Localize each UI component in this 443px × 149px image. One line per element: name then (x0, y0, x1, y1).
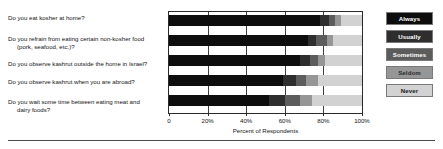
question-label: Do you eat kosher at home? (8, 14, 166, 22)
stacked-bar-chart-figure: Do you eat kosher at home?Do you refrain… (0, 0, 443, 149)
bar-segment-always (169, 35, 308, 46)
legend-item-usually[interactable]: Usually (386, 30, 433, 43)
legend-item-always[interactable]: Always (386, 12, 433, 25)
x-tick (362, 113, 363, 116)
bar-segment-seldom (318, 55, 326, 66)
bar-segment-usually (300, 55, 310, 66)
x-tick-label: 0 (167, 117, 170, 124)
bar-segment-usually (308, 35, 316, 46)
bar-segment-never (318, 75, 362, 86)
legend-label: Always (399, 15, 421, 22)
bar-segment-sometimes (296, 75, 306, 86)
x-tick (246, 113, 247, 116)
bar-segment-sometimes (285, 95, 300, 106)
bar-row (169, 35, 362, 46)
question-label: Do you observe kashrut outside the home … (8, 60, 166, 68)
question-label: Do you observe kashrut when you are abro… (8, 78, 166, 86)
legend-label: Seldom (398, 69, 421, 76)
bar-segment-never (325, 55, 362, 66)
legend-item-seldom[interactable]: Seldom (386, 66, 433, 79)
bar-segment-always (169, 15, 320, 26)
legend-label: Never (401, 87, 418, 94)
x-axis-title: Percent of Respondents (168, 127, 363, 134)
bar-segment-usually (283, 75, 297, 86)
bar-segment-usually (269, 95, 284, 106)
x-tick (323, 113, 324, 116)
bar-segment-never (333, 35, 362, 46)
legend: AlwaysUsuallySometimesSeldomNever (386, 12, 433, 102)
x-tick-label: 80% (317, 117, 329, 124)
legend-label: Usually (398, 33, 420, 40)
bar-segment-always (169, 55, 300, 66)
bar-row (169, 95, 362, 106)
x-tick (169, 113, 170, 116)
x-tick-label: 20% (201, 117, 213, 124)
bar-segment-usually (320, 15, 330, 26)
legend-label: Sometimes (393, 51, 426, 58)
legend-item-sometimes[interactable]: Sometimes (386, 48, 433, 61)
question-label: Do you wait some time between eating mea… (8, 98, 166, 114)
bar-segment-never (312, 95, 362, 106)
legend-item-never[interactable]: Never (386, 84, 433, 97)
x-tick (208, 113, 209, 116)
bar-row (169, 75, 362, 86)
bar-segment-always (169, 75, 283, 86)
bar-segment-never (341, 15, 362, 26)
x-tick-label: 100% (354, 117, 370, 124)
bar-segment-sometimes (310, 55, 318, 66)
question-label: Do you refrain from eating certain non-k… (8, 35, 166, 51)
plot-area (168, 11, 363, 114)
bar-row (169, 55, 362, 66)
x-tick (285, 113, 286, 116)
bar-segment-seldom (306, 75, 318, 86)
bottom-divider (8, 140, 435, 141)
x-tick-label: 40% (240, 117, 252, 124)
bar-row (169, 15, 362, 26)
plot-inner (169, 12, 362, 113)
bar-segment-seldom (300, 95, 312, 106)
x-tick-label: 60% (279, 117, 291, 124)
bar-segment-sometimes (316, 35, 328, 46)
question-label-column: Do you eat kosher at home?Do you refrain… (8, 10, 166, 114)
bar-segment-always (169, 95, 269, 106)
